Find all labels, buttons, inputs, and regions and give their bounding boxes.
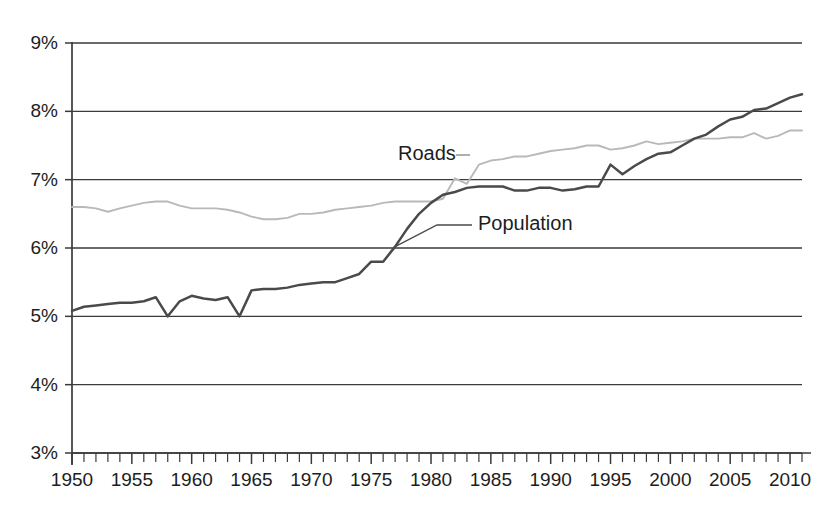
x-tick-label: 1995 [589,469,631,490]
population-series-label: Population [478,212,573,234]
y-tick-label: 4% [31,374,59,395]
x-tick-label: 2000 [649,469,691,490]
x-tick-label: 1970 [290,469,332,490]
x-axis-ticks: 1950195519601965197019751980198519901995… [51,453,811,490]
roads-series-label: Roads [398,142,456,164]
chart-canvas: 9%8%7%6%5%4%3%19501955196019651970197519… [0,0,826,512]
y-tick-label: 7% [31,169,59,190]
y-tick-label: 9% [31,32,59,53]
y-tick-label: 6% [31,237,59,258]
x-tick-label: 2010 [769,469,811,490]
x-tick-label: 2005 [709,469,751,490]
x-tick-label: 1980 [410,469,452,490]
x-tick-label: 1950 [51,469,93,490]
y-axis-ticks: 9%8%7%6%5%4%3% [31,32,72,463]
x-tick-label: 1975 [350,469,392,490]
y-tick-label: 8% [31,100,59,121]
x-tick-label: 1955 [111,469,153,490]
line-chart: 9%8%7%6%5%4%3%19501955196019651970197519… [0,0,826,512]
x-tick-label: 1965 [230,469,272,490]
x-tick-label: 1990 [530,469,572,490]
population-annotation: Population [395,212,572,246]
y-tick-label: 5% [31,305,59,326]
gridlines [72,43,802,453]
x-tick-label: 1960 [171,469,213,490]
y-tick-label: 3% [31,442,59,463]
x-tick-label: 1985 [470,469,512,490]
roads-annotation: Roads [398,142,470,164]
